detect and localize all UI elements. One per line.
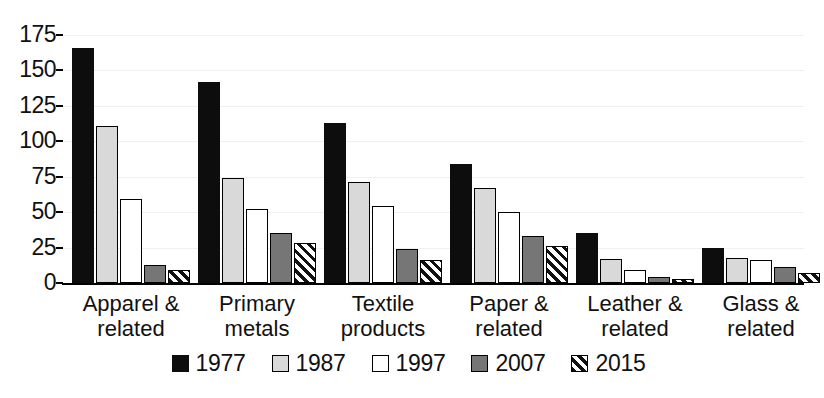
bar-1977[interactable] (576, 233, 598, 283)
bar-1997[interactable] (624, 270, 646, 283)
bar-1987[interactable] (348, 182, 370, 283)
bar-1987[interactable] (600, 259, 622, 283)
y-tick-mark (56, 140, 63, 142)
bar-1997[interactable] (246, 209, 268, 283)
x-axis-category-label: Glass & related (686, 291, 824, 341)
bar-group (72, 35, 190, 283)
bar-group-bars (702, 35, 820, 283)
bar-1987[interactable] (96, 126, 118, 283)
bar-1987[interactable] (726, 258, 748, 284)
y-tick-label: 100 (0, 129, 56, 152)
bar-1997[interactable] (372, 206, 394, 283)
y-tick-mark (56, 247, 63, 249)
bar-1977[interactable] (702, 248, 724, 283)
bar-1987[interactable] (222, 178, 244, 283)
bar-2015[interactable] (168, 270, 190, 283)
legend-swatch-icon (571, 355, 588, 372)
legend-label: 1977 (196, 352, 246, 375)
plot-area (62, 35, 804, 283)
y-tick-label: 125 (0, 94, 56, 117)
legend-label: 2007 (495, 352, 545, 375)
bar-2015[interactable] (294, 243, 316, 283)
x-axis-line (62, 283, 804, 285)
legend-swatch-icon (471, 355, 488, 372)
y-tick-label: 0 (0, 271, 56, 294)
y-tick-label: 25 (0, 236, 56, 259)
bar-1987[interactable] (474, 188, 496, 283)
legend-item-1997[interactable]: 1997 (372, 352, 446, 375)
bar-group-bars (72, 35, 190, 283)
legend-label: 1987 (296, 352, 346, 375)
bar-group-bars (324, 35, 442, 283)
bar-group (198, 35, 316, 283)
bar-group (324, 35, 442, 283)
bar-2015[interactable] (798, 273, 820, 283)
legend-swatch-icon (172, 355, 189, 372)
bar-2015[interactable] (546, 246, 568, 283)
legend-item-2007[interactable]: 2007 (471, 352, 545, 375)
y-tick-label: 75 (0, 165, 56, 188)
y-tick-label: 50 (0, 200, 56, 223)
bar-2007[interactable] (522, 236, 544, 283)
y-tick-mark (56, 211, 63, 213)
legend-label: 1997 (396, 352, 446, 375)
bar-1977[interactable] (198, 82, 220, 283)
legend-swatch-icon (272, 355, 289, 372)
bar-2007[interactable] (144, 265, 166, 283)
chart-legend: 19771987199720072015 (0, 352, 817, 375)
legend-swatch-icon (372, 355, 389, 372)
bar-group (702, 35, 820, 283)
y-tick-label: 150 (0, 58, 56, 81)
bar-group-bars (450, 35, 568, 283)
legend-label: 2015 (595, 352, 645, 375)
y-axis: 0255075100125150175 (0, 0, 56, 398)
y-tick-mark (56, 34, 63, 36)
bar-1977[interactable] (324, 123, 346, 283)
bar-2007[interactable] (774, 267, 796, 283)
bar-1977[interactable] (450, 164, 472, 283)
bar-1997[interactable] (120, 199, 142, 283)
bar-1997[interactable] (498, 212, 520, 283)
legend-item-1977[interactable]: 1977 (172, 352, 246, 375)
y-tick-mark (56, 176, 63, 178)
y-tick-mark (56, 69, 63, 71)
y-tick-mark (56, 105, 63, 107)
bar-group-bars (198, 35, 316, 283)
bar-1997[interactable] (750, 260, 772, 283)
legend-item-1987[interactable]: 1987 (272, 352, 346, 375)
legend-item-2015[interactable]: 2015 (571, 352, 645, 375)
bar-group (576, 35, 694, 283)
bar-2007[interactable] (270, 233, 292, 283)
bar-group-bars (576, 35, 694, 283)
bar-1977[interactable] (72, 48, 94, 283)
bar-group (450, 35, 568, 283)
bar-2007[interactable] (396, 249, 418, 283)
y-tick-label: 175 (0, 23, 56, 46)
bar-2015[interactable] (420, 260, 442, 283)
